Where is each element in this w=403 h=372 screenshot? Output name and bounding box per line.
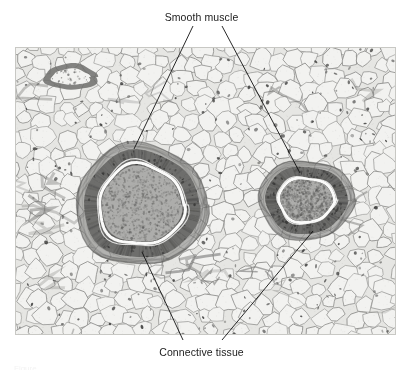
- micrograph-canvas: [15, 47, 396, 335]
- label-smooth-muscle: Smooth muscle: [0, 11, 403, 23]
- micrograph-image: [15, 47, 396, 335]
- caption-sliver: Figure: [14, 364, 274, 370]
- histology-figure: Smooth muscle Connective tissue Figure: [0, 0, 403, 372]
- label-connective-tissue: Connective tissue: [0, 346, 403, 358]
